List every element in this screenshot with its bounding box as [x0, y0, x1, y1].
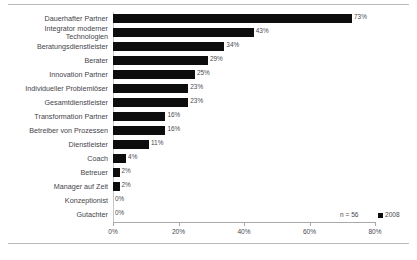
bar[interactable]	[113, 182, 120, 191]
bar-row: Individueller Problemlöser23%	[0, 82, 417, 96]
bar-value-label: 73%	[354, 13, 367, 21]
bar-value-label: 43%	[256, 27, 269, 35]
bar-value-label: 16%	[167, 111, 180, 119]
category-label: Coach	[0, 155, 108, 163]
bar-value-label: 0%	[115, 195, 124, 203]
category-label: Transformation Partner	[0, 113, 108, 121]
x-axis-tick-label: 80%	[368, 228, 381, 236]
bottom-divider	[8, 243, 409, 244]
category-label: Manager auf Zeit	[0, 183, 108, 191]
bar-track	[113, 84, 188, 93]
bar[interactable]	[113, 126, 165, 135]
chart-legend: 2008	[378, 211, 400, 219]
bar-track	[113, 140, 149, 149]
bar-value-label: 2%	[122, 181, 131, 189]
bar-track	[113, 168, 120, 177]
bar-row: Konzeptionist0%	[0, 194, 417, 208]
category-label: Individueller Problemlöser	[0, 85, 108, 93]
x-axis-tick	[113, 222, 114, 226]
bar-value-label: 23%	[190, 83, 203, 91]
bar-value-label: 23%	[190, 97, 203, 105]
bar-track	[113, 42, 224, 51]
plot-area: Dauerhafter Partner73%Integrator moderne…	[0, 12, 417, 240]
bar-row: Betreiber von Prozessen16%	[0, 124, 417, 138]
category-label: Dienstleister	[0, 141, 108, 149]
category-label: Berater	[0, 57, 108, 65]
bar-rows: Dauerhafter Partner73%Integrator moderne…	[0, 12, 417, 222]
category-label: Integrator moderner Technologien	[0, 25, 108, 41]
bar[interactable]	[113, 154, 126, 163]
bar-row: Berater29%	[0, 54, 417, 68]
bar-track	[113, 14, 352, 23]
bar-value-label: 2%	[122, 167, 131, 175]
bar-value-label: 29%	[210, 55, 223, 63]
bar[interactable]	[113, 56, 208, 65]
x-axis-tick-label: 0%	[108, 228, 118, 236]
category-label: Betreiber von Prozessen	[0, 127, 108, 135]
category-label: Dauerhafter Partner	[0, 15, 108, 23]
bar[interactable]	[113, 140, 149, 149]
x-axis-tick	[244, 222, 245, 226]
bar-row: Innovation Partner25%	[0, 68, 417, 82]
legend-swatch-2008	[378, 213, 383, 218]
bar-row: Gesamtdienstleister23%	[0, 96, 417, 110]
category-label: Konzeptionist	[0, 197, 108, 205]
bar-value-label: 0%	[115, 209, 124, 217]
x-axis-tick	[375, 222, 376, 226]
bar-row: Betreuer2%	[0, 166, 417, 180]
bar-value-label: 11%	[151, 139, 163, 147]
x-axis-tick-label: 60%	[303, 228, 316, 236]
bar[interactable]	[113, 70, 195, 79]
bar-track	[113, 56, 208, 65]
bar-track	[113, 70, 195, 79]
bar-track	[113, 182, 120, 191]
category-label: Gutachter	[0, 211, 108, 219]
chart-figure: Dauerhafter Partner73%Integrator moderne…	[0, 0, 417, 260]
x-axis-tick	[310, 222, 311, 226]
bar-track	[113, 112, 165, 121]
x-axis-tick-label: 20%	[172, 228, 185, 236]
bar-row: Coach4%	[0, 152, 417, 166]
bar[interactable]	[113, 14, 352, 23]
bar-track	[113, 154, 126, 163]
category-label: Gesamtdienstleister	[0, 99, 108, 107]
bar-track	[113, 126, 165, 135]
bar-row: Manager auf Zeit2%	[0, 180, 417, 194]
bar[interactable]	[113, 112, 165, 121]
bar[interactable]	[113, 168, 120, 177]
sample-size-annotation: n = 56	[340, 211, 359, 219]
bar[interactable]	[113, 84, 188, 93]
bar-value-label: 34%	[226, 41, 239, 49]
bar-row: Beratungsdienstleister34%	[0, 40, 417, 54]
bar-row: Dienstleister11%	[0, 138, 417, 152]
bar-value-label: 16%	[167, 125, 180, 133]
bar-row: Transformation Partner16%	[0, 110, 417, 124]
x-axis-tick	[179, 222, 180, 226]
bar-value-label: 4%	[128, 153, 137, 161]
bar[interactable]	[113, 42, 224, 51]
bar[interactable]	[113, 28, 254, 37]
bar[interactable]	[113, 98, 188, 107]
top-divider	[8, 4, 409, 5]
bar-track	[113, 28, 254, 37]
category-label: Betreuer	[0, 169, 108, 177]
category-label: Beratungsdienstleister	[0, 43, 108, 51]
legend-label-2008: 2008	[385, 211, 400, 219]
bar-row: Integrator moderner Technologien43%	[0, 26, 417, 40]
x-axis-tick-label: 40%	[237, 228, 250, 236]
bar-value-label: 25%	[197, 69, 210, 77]
category-label: Innovation Partner	[0, 71, 108, 79]
bar-track	[113, 98, 188, 107]
